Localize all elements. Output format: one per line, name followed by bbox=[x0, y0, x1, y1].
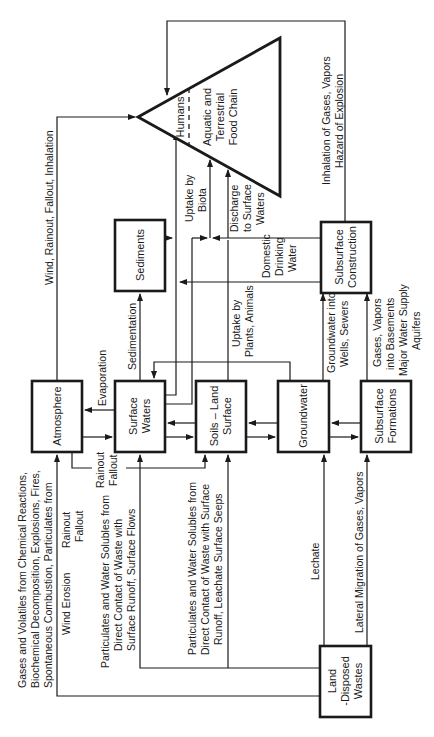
gases-basements-label-4: Aquifers bbox=[410, 311, 422, 350]
particulates-leachate-label-1: Particulates and Water Solubles from bbox=[186, 482, 198, 655]
rainout-mid-label-2: Fallout bbox=[107, 454, 119, 486]
particulates-surface-label-2: Direct Contact of Waste with bbox=[112, 519, 124, 651]
node-sediments: Sediments bbox=[115, 220, 165, 291]
uptake-biota-label-1: Uptake by bbox=[183, 174, 195, 222]
rainout-left-label-2: Fallout bbox=[73, 510, 85, 542]
environmental-pathways-diagram: Humans Aquatic and Terrestrial Food Chai… bbox=[0, 0, 434, 737]
surface-waters-label-1: Surface bbox=[127, 397, 139, 435]
node-soils-land-surface: Soils – Land Surface bbox=[196, 381, 246, 452]
domestic-water-label-1: Domestic bbox=[260, 234, 272, 278]
gases-basements-label-1: Gases, Vapors bbox=[371, 298, 383, 367]
discharge-label-1: Discharge bbox=[228, 185, 240, 232]
gases-volatiles-label-1: Gases and Volatiles from Chemical Reacti… bbox=[16, 472, 28, 688]
groundwater-wells-label-2: Wells, Sewers bbox=[338, 301, 350, 367]
uptake-biota-label-2: Biota bbox=[196, 188, 208, 212]
particulates-surface-label-3: Surface Runoff, Surface Flows bbox=[125, 509, 137, 651]
domestic-water-label-3: Water bbox=[286, 244, 298, 272]
wastes-to-surface-waters-arrow bbox=[140, 455, 320, 668]
wind-erosion-label: Wind Erosion bbox=[60, 572, 72, 635]
construction-label-2: Construction bbox=[346, 226, 358, 288]
soils-label-1: Soils – Land bbox=[208, 386, 220, 447]
formations-label-1: Subsurface bbox=[373, 388, 385, 444]
groundwater-wells-label-1: Groundwater into bbox=[325, 292, 337, 373]
node-subsurface-formations: Subsurface Formations bbox=[361, 381, 411, 452]
wastes-label-1: Land bbox=[326, 669, 338, 693]
groundwater-loop-to-surface-waters-arrow bbox=[154, 362, 290, 381]
lateral-migration-label: Lateral Migration of Gases, Vapors bbox=[353, 472, 365, 633]
inhalation-label-1: Inhalation of Gases, Vapors bbox=[320, 56, 332, 185]
node-atmosphere: Atmosphere bbox=[32, 381, 82, 452]
rainout-fallout-to-soils-arrow bbox=[72, 452, 205, 468]
food-chain-triangle: Humans Aquatic and Terrestrial Food Chai… bbox=[138, 38, 280, 196]
construction-label-1: Subsurface bbox=[333, 229, 345, 285]
rainout-left-label-1: Rainout bbox=[60, 512, 72, 548]
node-groundwater: Groundwater bbox=[278, 381, 329, 452]
node-land-disposed-wastes: Land -Disposed Wastes bbox=[320, 646, 371, 717]
uptake-plants-label-2: Plants, Animals bbox=[243, 285, 255, 357]
groundwater-label: Groundwater bbox=[297, 384, 309, 448]
gases-basements-label-2: into Basements bbox=[384, 298, 396, 370]
domestic-water-label-2: Drinking bbox=[273, 237, 285, 276]
formations-label-2: Formations bbox=[386, 388, 398, 444]
rainout-mid-label-1: Rainout bbox=[94, 452, 106, 488]
surface-waters-to-food-chain-line bbox=[165, 238, 192, 404]
atmosphere-label: Atmosphere bbox=[51, 386, 63, 445]
surface-waters-label-2: Waters bbox=[140, 398, 152, 433]
lechate-label: Lechate bbox=[309, 542, 321, 580]
gases-basements-label-3: Major Water Supply bbox=[397, 283, 409, 376]
discharge-label-3: Waters bbox=[254, 192, 266, 225]
node-surface-waters: Surface Waters bbox=[115, 381, 165, 452]
node-subsurface-construction: Subsurface Construction bbox=[321, 222, 371, 293]
surface-waters-to-humans-line bbox=[165, 133, 176, 395]
soils-label-2: Surface bbox=[221, 397, 233, 435]
sedimentation-label: Sedimentation bbox=[126, 303, 138, 370]
inhalation-label-2: Hazard of Explosion bbox=[333, 74, 345, 168]
humans-label: Humans bbox=[174, 96, 186, 137]
food-chain-label-1: Aquatic and bbox=[201, 88, 213, 146]
wind-rainout-inhalation-label: Wind, Rainout, Fallout, Inhalation bbox=[43, 130, 55, 285]
food-chain-label-3: Food Chain bbox=[227, 89, 239, 146]
uptake-plants-label-1: Uptake by bbox=[230, 299, 242, 347]
wastes-label-2: -Disposed bbox=[339, 656, 351, 706]
gases-volatiles-label-2: Biochemical Decomposition, Explosions, F… bbox=[29, 470, 41, 688]
particulates-leachate-label-3: Runoff, Leachate Surface Seeps bbox=[212, 493, 224, 645]
food-chain-label-2: Terrestrial bbox=[214, 93, 226, 141]
sediments-label: Sediments bbox=[134, 229, 146, 281]
gases-volatiles-label-3: Spontaneous Combustion, Particulates fro… bbox=[42, 482, 54, 688]
evaporation-label: Evaporation bbox=[96, 350, 108, 406]
wastes-label-3: Wastes bbox=[352, 662, 364, 699]
particulates-leachate-label-2: Direct Contact of Waste with Surface bbox=[199, 484, 211, 655]
discharge-label-2: to Surface bbox=[241, 184, 253, 232]
particulates-surface-label-1: Particulates and Water Solubles from bbox=[99, 495, 111, 668]
